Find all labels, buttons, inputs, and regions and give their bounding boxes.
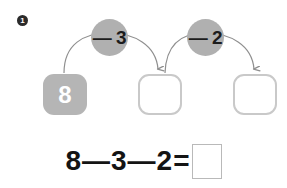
equation-row: 8 — 3 — 2 = — [0, 136, 287, 186]
worksheet-canvas: 1 — 3 — 2 8 8 — 3 — 2 = — [0, 0, 287, 188]
equation-operator-2: — — [127, 147, 157, 175]
operator-circle-minus-2: — 2 — [187, 19, 224, 56]
equation-term-3: 2 — [157, 147, 173, 175]
answer-box-step-1[interactable] — [138, 74, 182, 115]
operator-circle-minus-3: — 3 — [91, 19, 128, 56]
equation-answer-box[interactable] — [192, 144, 222, 179]
equation-equals-sign: = — [172, 147, 190, 175]
answer-box-step-2[interactable] — [233, 74, 277, 115]
equation-operator-1: — — [81, 147, 111, 175]
start-number-box: 8 — [43, 74, 87, 115]
equation-term-1: 8 — [65, 147, 81, 175]
equation-term-2: 3 — [111, 147, 127, 175]
